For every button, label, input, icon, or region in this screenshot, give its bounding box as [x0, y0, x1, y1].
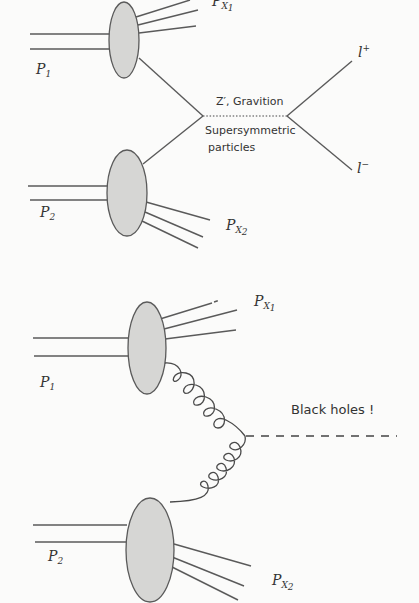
label-px2-bottom: PX2	[271, 572, 294, 592]
label-p1-bottom: P1	[39, 374, 55, 392]
feynman-diagrams: P1 PX1 P2 PX2 l+ l− Z′, Gravition Supers…	[0, 0, 419, 603]
label-px2-top: PX2	[225, 217, 248, 237]
label-px1-bottom: PX1	[253, 293, 276, 313]
label-lepton-plus: l+	[358, 43, 370, 60]
parton-blob-2	[126, 498, 174, 602]
label-lepton-minus: l−	[357, 159, 369, 176]
top-diagram: P1 PX1 P2 PX2 l+ l− Z′, Gravition Supers…	[28, 0, 370, 248]
remnant-1-lines	[160, 300, 237, 339]
label-p1-top: P1	[35, 61, 51, 79]
label-susy-line1: Supersymmetric	[205, 124, 296, 137]
remnant-1-lines	[136, 0, 198, 33]
label-susy-line2: particles	[208, 141, 255, 154]
proton-1-lines	[33, 338, 130, 356]
parton-blob-2	[107, 150, 147, 236]
lepton-plus-line	[287, 61, 352, 116]
bottom-diagram: P1 PX1 P2 PX2 Black holes !	[33, 293, 397, 602]
label-mediator: Z′, Gravition	[216, 95, 283, 108]
label-px1-top: PX1	[211, 0, 234, 13]
parton-blob-1	[109, 2, 139, 78]
parton-line-2	[143, 116, 203, 164]
gluon-2	[170, 436, 245, 502]
proton-2-lines	[33, 525, 127, 542]
gluon-1	[165, 363, 245, 436]
proton-1-lines	[30, 34, 110, 49]
parton-blob-1	[128, 302, 166, 394]
label-p2-top: P2	[39, 204, 55, 222]
label-black-holes: Black holes !	[291, 402, 374, 417]
parton-line-1	[139, 58, 203, 116]
remnant-2-lines	[170, 544, 251, 600]
proton-2-lines	[28, 186, 108, 200]
lepton-minus-line	[287, 116, 352, 170]
remnant-2-lines	[142, 202, 210, 248]
label-p2-bottom: P2	[47, 548, 63, 566]
